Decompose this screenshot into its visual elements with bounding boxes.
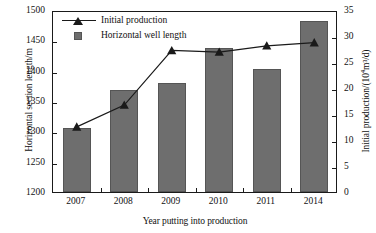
right-tick-20: 20 [344, 83, 372, 93]
left-tick-mark [53, 133, 57, 134]
right-tick-mark [332, 64, 336, 65]
left-tick-1300: 1300 [5, 126, 45, 136]
x-tick-mark [243, 188, 244, 192]
left-tick-1200: 1200 [5, 187, 45, 197]
right-tick-mark [332, 142, 336, 143]
bar-2009 [158, 83, 186, 192]
right-tick-0: 0 [344, 187, 372, 197]
right-axis-title-exponent: 4 [359, 70, 366, 73]
left-tick-mark [53, 73, 57, 74]
legend-line-triangle-icon [62, 14, 96, 27]
right-tick-10: 10 [344, 135, 372, 145]
right-tick-5: 5 [344, 161, 372, 171]
right-tick-mark [332, 168, 336, 169]
legend-item-initial-production: Initial production [62, 13, 186, 28]
x-tick-2007: 2007 [53, 196, 99, 206]
x-tick-mark [101, 188, 102, 192]
left-tick-mark [53, 103, 57, 104]
bar-2011 [253, 69, 281, 192]
right-tick-30: 30 [344, 31, 372, 41]
marker-triangle-2011 [262, 41, 271, 49]
x-tick-2009: 2009 [148, 196, 194, 206]
left-tick-mark [53, 164, 57, 165]
x-axis-title: Year putting into production [52, 216, 338, 226]
legend-square-swatch-icon [62, 29, 96, 42]
right-tick-35: 35 [344, 5, 372, 15]
left-tick-1350: 1350 [5, 96, 45, 106]
x-tick-mark [196, 188, 197, 192]
chart-figure: Horizontal section length/m Initial prod… [0, 0, 376, 233]
bar-2010 [205, 48, 233, 192]
left-tick-1250: 1250 [5, 157, 45, 167]
right-tick-mark [332, 116, 336, 117]
x-tick-2008: 2008 [100, 196, 146, 206]
x-tick-2011: 2011 [243, 196, 289, 206]
marker-triangle-2009 [167, 46, 176, 54]
bar-2014 [300, 21, 328, 192]
right-tick-mark [332, 90, 336, 91]
x-tick-2014: 2014 [290, 196, 336, 206]
left-tick-1400: 1400 [5, 66, 45, 76]
x-tick-mark [291, 188, 292, 192]
right-tick-25: 25 [344, 57, 372, 67]
x-tick-mark [148, 188, 149, 192]
right-tick-mark [332, 38, 336, 39]
bar-2007 [63, 128, 91, 192]
chart-legend: Initial production Horizontal well lengt… [62, 13, 186, 43]
legend-label-horizontal-well-length: Horizontal well length [101, 28, 186, 43]
legend-label-initial-production: Initial production [101, 13, 167, 28]
bar-2008 [110, 90, 138, 192]
left-tick-1450: 1450 [5, 35, 45, 45]
x-tick-2010: 2010 [195, 196, 241, 206]
left-tick-mark [53, 42, 57, 43]
legend-item-horizontal-well-length: Horizontal well length [62, 28, 186, 43]
right-tick-15: 15 [344, 109, 372, 119]
left-tick-1500: 1500 [5, 5, 45, 15]
